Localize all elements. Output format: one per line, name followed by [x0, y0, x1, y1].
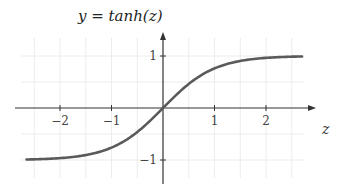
x-axis-arrow-icon — [308, 105, 316, 111]
tanh-chart: −2−1121−1 y = tanh(z) z — [0, 0, 346, 191]
chart-title: y = tanh(z) — [77, 7, 163, 25]
x-tick-label: 2 — [262, 114, 270, 128]
x-tick-label: −2 — [51, 114, 69, 128]
y-tick-label: −1 — [139, 153, 157, 167]
y-tick-label: 1 — [149, 49, 157, 63]
x-tick-label: −1 — [103, 114, 121, 128]
x-tick-label: 1 — [211, 114, 219, 128]
y-axis-arrow-icon — [160, 32, 166, 40]
x-axis-label: z — [321, 121, 330, 137]
